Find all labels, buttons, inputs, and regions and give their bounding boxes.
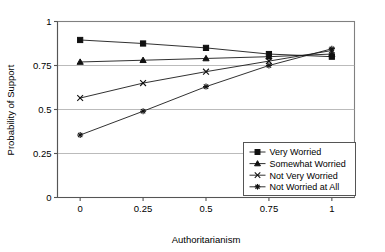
data-point-marker-star	[266, 63, 272, 69]
data-point-marker-star	[140, 108, 146, 114]
data-point-marker-star	[77, 132, 83, 138]
legend-item-label: Somewhat Worried	[270, 159, 346, 169]
gridlines	[58, 66, 355, 154]
y-tick-label: 0.75	[33, 60, 52, 71]
y-axis-title: Probability of Support	[5, 64, 16, 155]
x-axis-title: Authoritarianism	[172, 234, 241, 245]
y-tick-label: 0.25	[33, 148, 52, 159]
y-tick-label: 1	[46, 16, 51, 27]
chart-container: 00.250.50.751 00.250.50.751 Authoritaria…	[0, 0, 385, 252]
x-tick-label: 0.25	[134, 203, 153, 214]
y-axis-tick-labels: 00.250.50.751	[33, 16, 52, 203]
legend: Very WorriedSomewhat WorriedNot Very Wor…	[244, 143, 356, 196]
data-point-marker-square	[255, 150, 260, 155]
data-point-marker-x	[77, 95, 83, 101]
data-point-marker-star	[203, 84, 209, 90]
data-point-marker-star	[255, 184, 261, 190]
series-somewhat-worried	[77, 51, 335, 64]
legend-item-label: Not Worried at All	[270, 182, 340, 192]
x-tick-label: 0.5	[199, 203, 212, 214]
y-tick-label: 0.5	[38, 104, 51, 115]
legend-item-label: Very Worried	[270, 147, 322, 157]
series-line	[80, 49, 332, 135]
x-tick-label: 0	[78, 203, 83, 214]
probability-of-support-line-chart: 00.250.50.751 00.250.50.751 Authoritaria…	[0, 0, 385, 252]
data-point-marker-square	[78, 37, 83, 42]
y-tick-label: 0	[46, 192, 51, 203]
legend-item-label: Not Very Worried	[270, 171, 338, 181]
x-tick-label: 0.75	[260, 203, 279, 214]
data-point-marker-square	[140, 41, 145, 46]
data-point-marker-square	[203, 45, 208, 50]
x-axis-tick-labels: 00.250.50.751	[78, 203, 335, 214]
data-series-layer	[77, 37, 335, 138]
data-point-marker-star	[329, 46, 335, 52]
x-tick-label: 1	[329, 203, 334, 214]
